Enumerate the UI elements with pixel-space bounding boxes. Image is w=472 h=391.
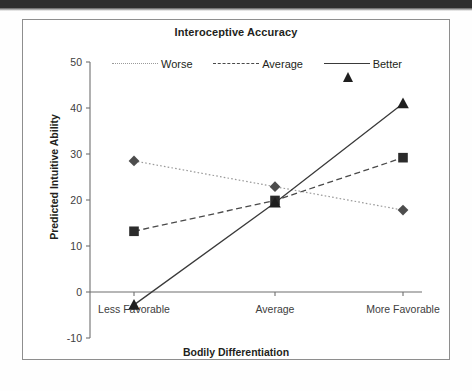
axis-group: 50403020100-10Less FavorableAverageMore … — [67, 56, 440, 344]
scan-edge-band — [0, 0, 472, 8]
data-point-average-0 — [129, 226, 139, 236]
series-line-worse — [134, 161, 403, 210]
x-tick-label: Average — [256, 303, 295, 315]
y-tick-label: 10 — [70, 240, 82, 252]
y-tick-label: -10 — [67, 332, 82, 344]
y-tick-label: 40 — [70, 102, 82, 114]
figure-page: Interoceptive Accuracy Worse Average — [0, 0, 472, 391]
data-point-better-2 — [397, 98, 409, 109]
data-point-worse-2 — [398, 205, 409, 216]
y-tick-label: 20 — [70, 194, 82, 206]
plot-area: 50403020100-10Less FavorableAverageMore … — [22, 19, 450, 360]
data-point-worse-1 — [270, 181, 281, 192]
x-tick-label: More Favorable — [366, 303, 440, 315]
plot-svg: 50403020100-10Less FavorableAverageMore … — [22, 19, 450, 360]
y-tick-label: 0 — [76, 286, 82, 298]
series-group — [134, 103, 403, 304]
data-point-average-2 — [398, 153, 408, 163]
scan-edge-fade — [0, 8, 472, 11]
y-tick-label: 50 — [70, 56, 82, 68]
x-axis-label: Bodily Differentiation — [22, 346, 450, 358]
series-line-better — [134, 103, 403, 304]
series-line-average — [134, 158, 403, 232]
y-tick-label: 30 — [70, 148, 82, 160]
data-point-worse-0 — [129, 156, 140, 167]
y-axis-label: Predicted Intuitive Ability — [48, 87, 60, 267]
